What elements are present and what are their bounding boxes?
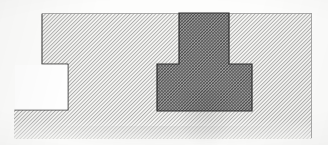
diagram-svg <box>0 0 328 145</box>
figure-canvas: Hatched region with rectangular notch an… <box>0 0 328 145</box>
rectangular-notch <box>15 65 68 110</box>
